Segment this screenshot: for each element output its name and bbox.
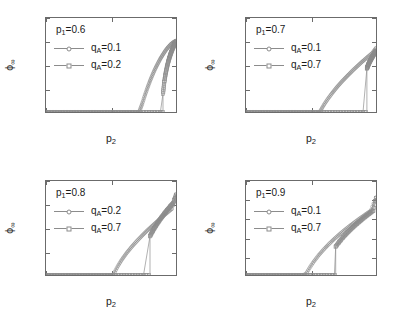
legend-sample-line	[54, 211, 84, 212]
legend-label: qA=0.7	[291, 222, 321, 235]
square-marker-icon	[267, 226, 272, 231]
circle-marker-icon	[267, 209, 272, 214]
legend: qA=0.1qA=0.7	[254, 40, 321, 74]
square-marker-icon	[267, 63, 272, 68]
y-axis-title: ϕ∞	[203, 59, 217, 70]
legend-item: qA=0.2	[54, 203, 121, 220]
legend-item: qA=0.1	[54, 40, 121, 57]
legend-sample-line	[254, 211, 284, 212]
plot-area: p1=0.9qA=0.1qA=0.7	[245, 180, 377, 276]
plot-area: p1=0.8qA=0.2qA=0.7	[45, 180, 177, 276]
legend-sample-line	[54, 65, 84, 66]
figure-canvas: p2ϕ∞p1=0.6qA=0.1qA=0.2 p2ϕ∞p1=0.7qA=0.1q…	[0, 0, 400, 326]
legend-sample-line	[54, 48, 84, 49]
legend-item: qA=0.7	[254, 57, 321, 74]
x-axis-title: p2	[306, 295, 316, 309]
legend-item: qA=0.1	[254, 203, 321, 220]
panel-parameter-label: p1=0.9	[256, 187, 285, 200]
legend-label: qA=0.1	[291, 42, 321, 55]
legend-label: qA=0.7	[91, 222, 121, 235]
legend-label: qA=0.7	[291, 59, 321, 72]
circle-marker-icon	[67, 46, 72, 51]
legend-sample-line	[54, 228, 84, 229]
y-axis-title: ϕ∞	[203, 222, 217, 233]
legend: qA=0.1qA=0.7	[254, 203, 321, 237]
legend-sample-line	[254, 48, 284, 49]
subplot-bottom-right: p2ϕ∞p1=0.9qA=0.1qA=0.7	[200, 163, 400, 326]
legend: qA=0.2qA=0.7	[54, 203, 121, 237]
legend-sample-line	[254, 228, 284, 229]
subplot-top-right: p2ϕ∞p1=0.7qA=0.1qA=0.7	[200, 0, 400, 163]
legend-label: qA=0.2	[91, 205, 121, 218]
legend-label: qA=0.2	[91, 59, 121, 72]
legend-item: qA=0.7	[254, 220, 321, 237]
y-axis-title: ϕ∞	[3, 59, 17, 70]
legend-item: qA=0.2	[54, 57, 121, 74]
square-marker-icon	[67, 63, 72, 68]
legend-item: qA=0.7	[54, 220, 121, 237]
legend-item: qA=0.1	[254, 40, 321, 57]
panel-parameter-label: p1=0.7	[256, 24, 285, 37]
subplot-bottom-left: p2ϕ∞p1=0.8qA=0.2qA=0.7	[0, 163, 200, 326]
panel-parameter-label: p1=0.6	[56, 24, 85, 37]
x-axis-title: p2	[306, 132, 316, 146]
x-axis-title: p2	[106, 295, 116, 309]
square-marker-icon	[67, 226, 72, 231]
subplot-top-left: p2ϕ∞p1=0.6qA=0.1qA=0.2	[0, 0, 200, 163]
legend-label: qA=0.1	[91, 42, 121, 55]
plot-area: p1=0.6qA=0.1qA=0.2	[45, 17, 177, 113]
y-axis-title: ϕ∞	[3, 222, 17, 233]
legend-sample-line	[254, 65, 284, 66]
circle-marker-icon	[267, 46, 272, 51]
plot-area: p1=0.7qA=0.1qA=0.7	[245, 17, 377, 113]
panel-parameter-label: p1=0.8	[56, 187, 85, 200]
legend: qA=0.1qA=0.2	[54, 40, 121, 74]
circle-marker-icon	[67, 209, 72, 214]
legend-label: qA=0.1	[291, 205, 321, 218]
x-axis-title: p2	[106, 132, 116, 146]
